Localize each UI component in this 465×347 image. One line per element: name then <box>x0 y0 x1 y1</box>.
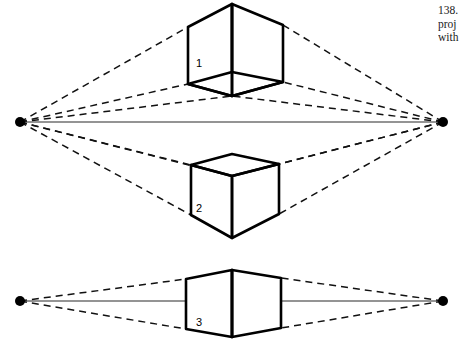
vanishing-point-right-upper <box>438 117 448 127</box>
ray-left-to-cube2-bottom-left <box>20 122 191 215</box>
vanishing-point-left-upper <box>15 117 25 127</box>
cube-3-label: 3 <box>196 316 202 328</box>
vanishing-point-left-lower <box>15 296 25 306</box>
cube-1-label: 1 <box>196 57 202 69</box>
perspective-diagram-svg: 1 2 3 <box>0 0 465 347</box>
cube-2-label: 2 <box>196 202 202 214</box>
ray-right-to-cube3-top <box>281 278 443 301</box>
ray-right-to-cube1-top <box>283 25 443 122</box>
cube-3: 3 <box>186 270 281 337</box>
ray-left-to-cube1-base-front <box>20 96 232 122</box>
ray-right-to-cube3-bottom <box>281 301 443 328</box>
cube-1: 1 <box>188 4 283 96</box>
caption-line-2: proj <box>438 18 465 32</box>
cube-2: 2 <box>191 154 279 238</box>
caption-line-1: 138. <box>438 4 465 18</box>
ray-right-to-cube1-bottom-right <box>283 82 443 122</box>
ray-right-to-cube2-bottom-right <box>279 122 443 214</box>
perspective-figure: 1 2 3 <box>0 0 465 347</box>
figure-caption: 138. proj with <box>438 4 465 45</box>
ray-right-to-cube1-base-front <box>232 96 443 122</box>
caption-line-3: with <box>438 31 465 45</box>
ray-left-to-cube1-bottom-left <box>20 84 188 122</box>
ray-left-to-cube1-top <box>20 27 188 122</box>
ray-left-to-cube3-bottom <box>20 301 186 329</box>
ray-left-to-cube3-top <box>20 279 186 301</box>
vanishing-point-right-lower <box>438 296 448 306</box>
